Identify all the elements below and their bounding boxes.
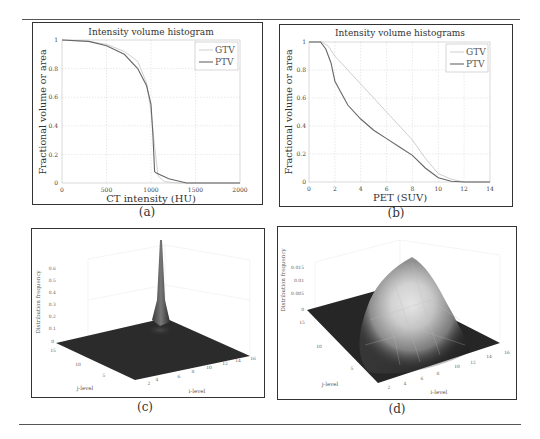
svg-text:15: 15 (299, 320, 305, 325)
svg-text:0.015: 0.015 (291, 265, 304, 270)
svg-text:14: 14 (486, 354, 492, 359)
caption-d: (d) (377, 402, 417, 416)
svg-text:12: 12 (470, 360, 476, 365)
zlabel-d: Distribution frequency (280, 248, 287, 312)
svg-text:10: 10 (316, 344, 322, 349)
svg-text:0: 0 (301, 307, 304, 312)
svg-text:4: 4 (404, 381, 407, 386)
svg-text:16: 16 (504, 350, 510, 355)
ilabel-d: i-level (431, 389, 448, 395)
svg-text:10: 10 (454, 364, 460, 369)
svg-text:0.005: 0.005 (291, 291, 304, 296)
svg-text:6: 6 (421, 376, 424, 381)
zticks-d: 0.015 0.01 0.005 0 (291, 265, 304, 312)
chart-d: 0.015 0.01 0.005 0 15 10 5 2 4 6 8 10 12… (0, 0, 540, 439)
svg-text:8: 8 (437, 371, 440, 376)
svg-text:0.01: 0.01 (294, 278, 304, 283)
svg-text:2: 2 (388, 385, 391, 390)
jlabel-d: j-level (321, 381, 339, 388)
svg-text:5: 5 (351, 366, 354, 371)
